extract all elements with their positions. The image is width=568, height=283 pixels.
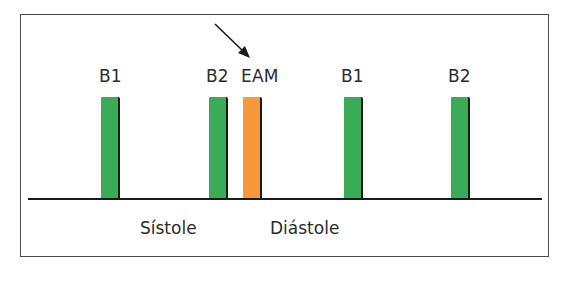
- sound-bar-b2: [209, 97, 228, 199]
- sound-label-b1: B1: [99, 66, 122, 86]
- sound-bar-b2-second: [451, 97, 470, 199]
- sound-bar-b1-second: [344, 97, 363, 199]
- phase-label-diastole: Diástole: [270, 218, 339, 238]
- arrow-icon: [0, 0, 568, 283]
- phase-label-systole: Sístole: [140, 218, 197, 238]
- sound-label-b1-second: B1: [341, 66, 364, 86]
- sound-label-b2-second: B2: [448, 66, 471, 86]
- sound-label-b2: B2: [206, 66, 229, 86]
- time-axis: [28, 198, 542, 200]
- sound-label-eam: EAM: [241, 66, 279, 86]
- sound-bar-eam: [243, 97, 262, 199]
- sound-bar-b1: [101, 97, 120, 199]
